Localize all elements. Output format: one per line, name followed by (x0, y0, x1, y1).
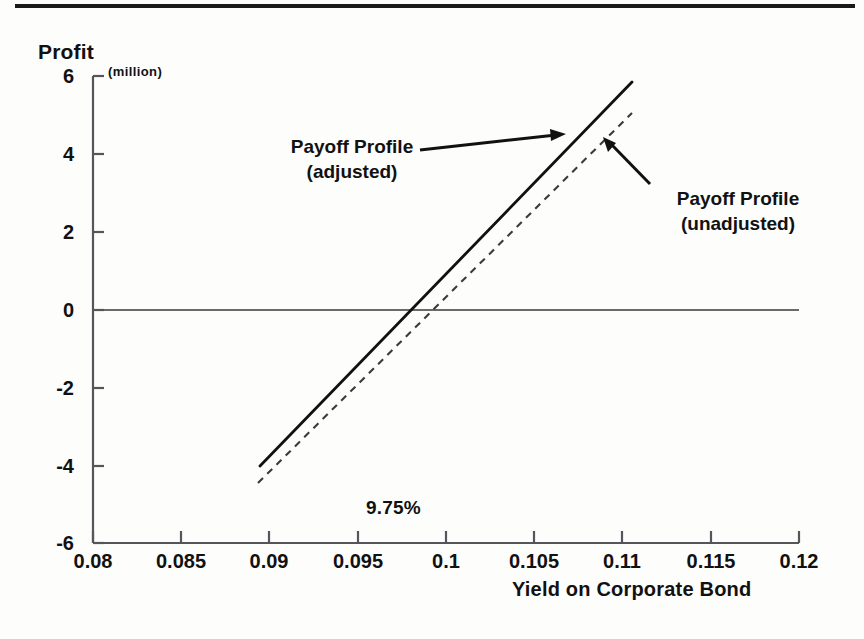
annotation-payoff-unadjusted: Payoff Profile (unadjusted) (646, 186, 830, 236)
figure-page: Profit (million) Yield on Corporate Bond… (0, 0, 864, 639)
x-axis-ticks (93, 531, 799, 543)
annotation-line-2: (unadjusted) (646, 211, 830, 236)
x-axis-title: Yield on Corporate Bond (512, 578, 751, 601)
breakeven-yield-label: 9.75% (366, 497, 421, 519)
annotation-payoff-adjusted: Payoff Profile (adjusted) (278, 134, 426, 184)
x-tick-label: 0.12 (744, 550, 854, 573)
y-tick-label: 4 (22, 143, 74, 166)
annotation-line-1: Payoff Profile (278, 134, 426, 159)
leader-arrow-unadjusted (603, 137, 650, 184)
chart-plot-svg (0, 0, 864, 639)
y-tick-label: 0 (22, 299, 74, 322)
y-axis-ticks (93, 76, 104, 543)
annotation-line-2: (adjusted) (278, 159, 426, 184)
y-tick-label: -2 (22, 377, 74, 400)
y-axis-title: Profit (38, 40, 94, 64)
leader-arrow-adjusted (420, 129, 566, 150)
y-tick-label: -4 (22, 455, 74, 478)
y-tick-label: 6 (22, 65, 74, 88)
y-axis-units-label: (million) (108, 64, 162, 79)
annotation-line-1: Payoff Profile (646, 186, 830, 211)
y-tick-label: 2 (22, 221, 74, 244)
